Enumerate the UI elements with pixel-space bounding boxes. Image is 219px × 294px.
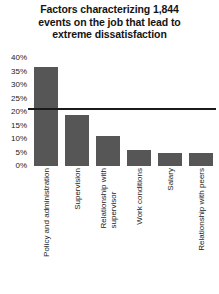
y-axis-tick-label: 30% [11, 81, 27, 89]
bar [127, 150, 151, 166]
y-axis-tick-label: 25% [11, 95, 27, 103]
y-axis-tick-label: 40% [11, 54, 27, 62]
x-axis-category-label: Relationship with supervisor [99, 168, 118, 228]
chart-title-line-1: Factors characterizing 1,844 [8, 3, 211, 16]
x-axis-category-label: Supervision [73, 168, 83, 210]
y-axis-tick-label: 15% [11, 122, 27, 130]
y-axis-tick-label: 20% [11, 108, 27, 116]
x-axis-line [28, 108, 216, 110]
x-axis-category-label: Salary [166, 168, 176, 191]
bar [34, 67, 58, 166]
y-axis-tick-label: 10% [11, 135, 27, 143]
bar-chart: Factors characterizing 1,844 events on t… [0, 0, 219, 294]
plot-area: 40%35%30%25%20%15%10%5%0% [0, 58, 219, 166]
bar [65, 115, 89, 166]
x-axis-category-label: Relationship with peers [197, 168, 207, 251]
chart-title-line-2: events on the job that lead to [8, 16, 211, 29]
bar [158, 153, 182, 167]
y-axis: 40%35%30%25%20%15%10%5%0% [0, 58, 30, 166]
y-axis-tick-label: 35% [11, 68, 27, 76]
y-axis-tick-label: 5% [15, 149, 27, 157]
x-axis-category-label: Work conditions [135, 168, 145, 225]
chart-title-line-3: extreme dissatisfaction [8, 28, 211, 41]
x-axis-labels: Policy and administrationSupervisionRela… [30, 168, 216, 292]
chart-title: Factors characterizing 1,844 events on t… [8, 3, 211, 41]
x-axis-category-label: Policy and administration [42, 168, 52, 257]
bar [189, 153, 213, 167]
bar [96, 136, 120, 166]
y-axis-tick-label: 0% [15, 162, 27, 170]
bars-layer [30, 58, 216, 166]
